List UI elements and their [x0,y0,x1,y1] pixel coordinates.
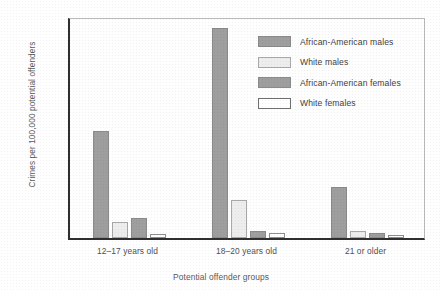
legend-label: African-American males [300,37,393,47]
chart-container: Crimes per 100,000 potential offenders 0… [0,0,442,291]
bar [150,234,166,238]
legend-swatch [258,98,291,109]
legend-label: African-American females [300,78,401,88]
bar [369,233,385,238]
bar [250,231,266,238]
bar [269,233,285,238]
legend-item: African-American males [258,33,401,50]
x-axis-title: Potential offender groups [0,272,442,282]
bar [131,218,147,238]
legend-label: White females [300,98,356,108]
legend: African-American malesWhite malesAfrican… [258,33,401,115]
bar [331,187,347,238]
bar [112,222,128,238]
legend-swatch [258,77,291,88]
x-tick-label: 18–20 years old [216,246,277,256]
bar [350,231,366,238]
bar [212,28,228,238]
legend-item: White females [258,95,401,112]
bar [231,200,247,238]
bar [93,131,109,238]
legend-swatch [258,36,291,47]
legend-item: African-American females [258,74,401,91]
y-axis-title: Crimes per 100,000 potential offenders [28,0,37,230]
legend-item: White males [258,54,401,71]
bar [388,235,404,238]
x-tick-label: 21 or older [345,246,386,256]
legend-label: White males [300,57,348,67]
legend-swatch [258,57,291,68]
x-tick-label: 12–17 years old [97,246,158,256]
